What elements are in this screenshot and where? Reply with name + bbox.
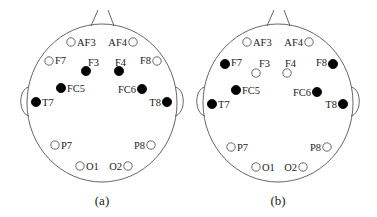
electrode-group: AF3AF4F7F3F4F8FC5FC6T7T8P7P8O1O2 [31, 37, 171, 172]
electrode-label: O2 [284, 162, 297, 173]
electrode-label: T8 [325, 99, 337, 110]
electrode-label: F4 [115, 57, 127, 68]
electrode-p7-inactive [51, 141, 59, 149]
electrode-label: FC5 [242, 85, 260, 96]
electrode-label: AF3 [253, 37, 272, 48]
panel-caption: (a) [95, 193, 109, 208]
electrode-f7-active [220, 59, 229, 68]
electrode-t7-active [207, 99, 216, 108]
electrode-fc5-active [231, 85, 240, 94]
electrode-f7-inactive [45, 57, 53, 65]
electrode-label: FC6 [293, 87, 311, 98]
electrode-label: P8 [310, 142, 321, 153]
head-panel-a: AF3AF4F7F3F4F8FC5FC6T7T8P7P8O1O2 (a) [21, 10, 184, 208]
electrode-label: O1 [262, 162, 275, 173]
electrode-label: P7 [237, 142, 248, 153]
electrode-t8-active [162, 97, 171, 106]
electrode-label: T7 [218, 99, 230, 110]
electrode-af3-inactive [243, 38, 251, 46]
electrode-t8-active [338, 99, 347, 108]
electrode-group: AF3AF4F7F3F4F8FC5FC6T7T8P7P8O1O2 [207, 37, 347, 173]
electrode-label: F4 [285, 58, 297, 69]
electrode-label: AF3 [77, 37, 96, 48]
electrode-fc6-active [312, 87, 321, 96]
electrode-af3-inactive [67, 38, 75, 46]
electrode-label: P8 [134, 140, 145, 151]
electrode-f8-inactive [153, 57, 161, 65]
electrode-fc6-active [137, 84, 146, 93]
electrode-label: AF4 [108, 37, 127, 48]
electrode-fc5-active [56, 83, 65, 92]
electrode-p8-inactive [147, 141, 155, 149]
electrode-f4-inactive [283, 69, 291, 77]
electrode-label: F7 [231, 57, 242, 68]
electrode-o2-inactive [299, 163, 307, 171]
electrode-label: T7 [42, 97, 54, 108]
electrode-label: FC6 [118, 84, 136, 95]
electrode-o2-inactive [124, 162, 132, 170]
electrode-p7-inactive [227, 143, 235, 151]
electrode-t7-active [31, 97, 40, 106]
electrode-label: F7 [55, 55, 66, 66]
electrode-label: AF4 [284, 37, 303, 48]
electrode-label: O1 [86, 161, 99, 172]
electrode-label: FC5 [67, 83, 85, 94]
electrode-label: O2 [109, 161, 122, 172]
electrode-o1-inactive [76, 162, 84, 170]
electrode-o1-inactive [252, 163, 260, 171]
electrode-f3-inactive [252, 69, 260, 77]
electrode-label: F3 [259, 58, 270, 69]
eeg-electrode-diagram: AF3AF4F7F3F4F8FC5FC6T7T8P7P8O1O2 (a) AF3… [0, 0, 377, 217]
electrode-p8-inactive [323, 143, 331, 151]
panel-caption: (b) [270, 193, 285, 208]
electrode-af4-inactive [129, 38, 137, 46]
electrode-f8-active [328, 59, 337, 68]
head-panel-b: AF3AF4F7F3F4F8FC5FC6T7T8P7P8O1O2 (b) [197, 10, 360, 208]
electrode-label: F8 [316, 57, 327, 68]
electrode-af4-inactive [305, 38, 313, 46]
electrode-label: F8 [140, 55, 151, 66]
electrode-label: P7 [61, 140, 72, 151]
electrode-label: T8 [149, 97, 161, 108]
electrode-label: F3 [88, 57, 99, 68]
